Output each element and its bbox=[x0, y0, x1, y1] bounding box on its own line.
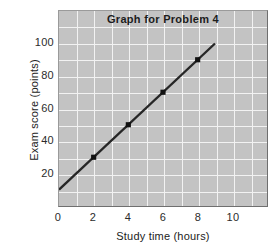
x-tick-label: 0 bbox=[46, 211, 70, 223]
data-point-marker bbox=[160, 90, 165, 95]
trend-line bbox=[59, 44, 215, 190]
x-tick-label: 4 bbox=[116, 211, 140, 223]
x-tick-label: 10 bbox=[221, 211, 245, 223]
y-axis-label: Exam score (points) bbox=[28, 10, 40, 210]
chart-figure: Graph for Problem 4 10080604020 0246810 … bbox=[0, 0, 278, 252]
x-axis-ticks: 0246810 bbox=[58, 211, 278, 227]
x-tick-label: 2 bbox=[81, 211, 105, 223]
data-point-marker bbox=[91, 155, 96, 160]
x-tick-label: 6 bbox=[151, 211, 175, 223]
plot-area bbox=[58, 10, 268, 207]
data-layer bbox=[59, 11, 267, 206]
x-axis-label: Study time (hours) bbox=[58, 230, 268, 242]
x-tick-label: 8 bbox=[186, 211, 210, 223]
chart-title: Graph for Problem 4 bbox=[58, 13, 268, 25]
data-point-marker bbox=[195, 57, 200, 62]
line-series bbox=[59, 44, 215, 190]
data-point-marker bbox=[126, 122, 131, 127]
